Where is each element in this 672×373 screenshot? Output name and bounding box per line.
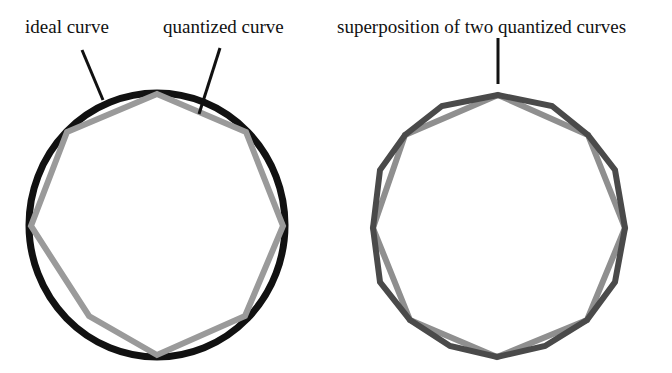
diagram-canvas (0, 0, 672, 373)
right-figure (373, 38, 625, 357)
pointer-ideal (82, 50, 103, 100)
left-figure (29, 48, 285, 357)
